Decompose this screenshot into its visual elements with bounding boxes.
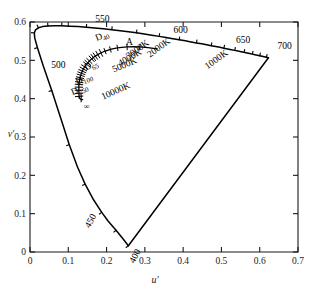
- y-tick-label: 0.2: [14, 171, 26, 181]
- x-tick-label: 0.1: [62, 256, 74, 266]
- y-tick-label: 0.4: [14, 94, 26, 104]
- y-tick-label: 0: [21, 247, 26, 257]
- wavelength-label: 600: [173, 25, 188, 35]
- cie-1976-ucs-plot: 00.10.20.30.40.50.60.7 00.10.20.30.40.50…: [0, 0, 309, 290]
- wavelength-tick: [235, 47, 236, 51]
- x-tick-label: 0.4: [177, 256, 189, 266]
- wavelength-label: 650: [236, 35, 251, 45]
- y-tick-label: 0.1: [14, 209, 26, 219]
- wavelength-tick: [211, 42, 212, 46]
- x-axis-label: u′: [151, 274, 159, 285]
- x-tick-label: 0.2: [101, 256, 113, 266]
- wavelength-label: 550: [95, 14, 110, 24]
- x-tick-label: 0.6: [254, 256, 266, 266]
- x-tick-label: 0.3: [139, 256, 151, 266]
- wavelength-label: 500: [51, 60, 66, 70]
- chromaticity-diagram-figure: 00.10.20.30.40.50.60.7 00.10.20.30.40.50…: [0, 0, 309, 290]
- wavelength-tick: [179, 37, 180, 41]
- illuminant-label: A: [126, 37, 133, 47]
- x-tick-label: 0: [28, 256, 33, 266]
- wavelength-label: 700: [277, 41, 292, 51]
- y-tick-label: 0.6: [14, 17, 26, 27]
- wavelength-tick: [159, 33, 160, 37]
- isotemperature-line: [75, 96, 83, 97]
- wavelength-tick: [244, 49, 245, 53]
- x-tick-label: 0.7: [292, 256, 304, 266]
- x-tick-label: 0.5: [215, 256, 227, 266]
- y-tick-label: 0.5: [14, 56, 26, 66]
- y-axis-label: v′: [8, 128, 15, 139]
- wavelength-tick: [136, 30, 137, 34]
- infinity-label: ∞: [84, 102, 90, 111]
- y-tick-label: 0.3: [14, 132, 26, 142]
- wavelength-tick: [196, 40, 197, 44]
